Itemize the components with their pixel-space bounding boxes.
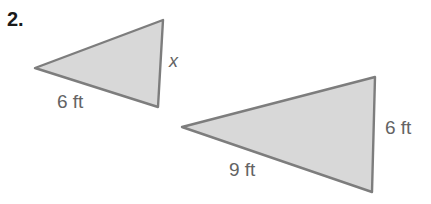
problem-number: 2. <box>7 9 24 29</box>
large-triangle-right-label: 6 ft <box>385 118 411 137</box>
large-triangle-base-label: 9 ft <box>229 160 255 179</box>
large-triangle-shape <box>182 77 375 192</box>
problem-figure-page: 2. 6 ft x 9 ft 6 ft <box>0 0 431 204</box>
small-triangle-unknown-label: x <box>169 52 178 70</box>
small-triangle-shape <box>35 20 163 107</box>
small-triangle-base-label: 6 ft <box>57 92 83 111</box>
